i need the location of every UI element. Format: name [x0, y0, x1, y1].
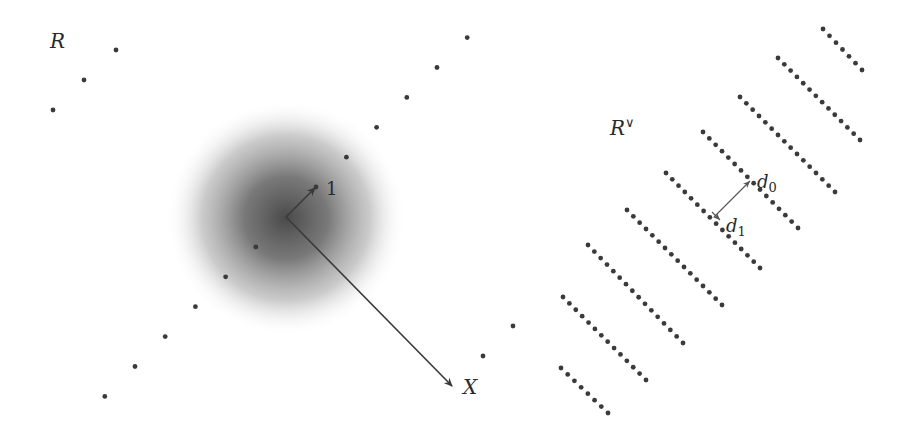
dual-lattice-point — [726, 155, 731, 160]
dual-lattice-point — [713, 296, 718, 301]
dual-lattice-point — [565, 372, 570, 377]
dual-lattice-point — [795, 75, 800, 80]
label-d0: d0 — [757, 171, 777, 195]
dual-lattice-point — [567, 301, 572, 306]
dual-lattice-point — [751, 181, 756, 186]
dual-lattice-point — [644, 378, 649, 383]
dual-lattice-point — [663, 246, 668, 251]
dual-lattice-point — [681, 341, 686, 346]
dual-lattice-point — [813, 93, 818, 98]
dual-lattice-point — [744, 101, 749, 106]
dual-lattice-point — [579, 385, 584, 390]
dual-lattice-point — [637, 220, 642, 225]
dual-lattice-point — [788, 68, 793, 73]
lattice-point — [51, 108, 56, 113]
lattice-point — [253, 245, 258, 250]
dual-lattice-point — [783, 213, 788, 218]
dual-lattice-point — [674, 334, 679, 339]
dual-lattice-point — [853, 61, 858, 66]
dual-lattice-point — [605, 262, 610, 267]
dual-lattice-point — [689, 196, 694, 201]
dual-lattice-point — [586, 243, 591, 248]
dual-lattice-point — [662, 321, 667, 326]
dual-lattice-point — [701, 130, 706, 135]
dual-lattice-point — [851, 131, 856, 136]
dual-lattice-lines — [559, 27, 865, 416]
dual-lattice-point — [789, 219, 794, 224]
dual-lattice-point — [858, 138, 863, 143]
dual-lattice-point — [827, 33, 832, 38]
label-r-dual: R∨ — [609, 115, 635, 140]
dual-lattice-point — [682, 190, 687, 195]
dual-lattice-point — [611, 269, 616, 274]
dual-lattice-point — [606, 411, 611, 416]
dual-lattice-point — [732, 162, 737, 167]
dual-lattice-point — [664, 171, 669, 176]
lattice-point — [344, 155, 349, 160]
dual-lattice-point — [833, 190, 838, 195]
dual-lattice-point — [707, 136, 712, 141]
dual-lattice-point — [770, 200, 775, 205]
dual-lattice-point — [720, 149, 725, 154]
dual-lattice-point — [631, 214, 636, 219]
dual-lattice-point — [820, 177, 825, 182]
dual-lattice-point — [599, 333, 604, 338]
label-one: 1 — [326, 178, 337, 199]
dual-lattice-point — [750, 107, 755, 112]
dual-lattice-point — [751, 259, 756, 264]
dual-lattice-point — [845, 125, 850, 130]
dual-lattice-point — [758, 266, 763, 271]
lattice-point — [163, 334, 168, 339]
dual-lattice-point — [714, 221, 719, 226]
dual-lattice-point — [807, 87, 812, 92]
dual-lattice-point — [656, 239, 661, 244]
dual-lattice-point — [713, 142, 718, 147]
lattice-point — [481, 354, 486, 359]
dual-lattice-point — [586, 320, 591, 325]
dual-lattice-point — [668, 328, 673, 333]
dual-lattice-point — [675, 258, 680, 263]
dual-lattice-point — [655, 314, 660, 319]
lattice-point — [223, 274, 228, 279]
dual-lattice-point — [585, 391, 590, 396]
lattice-point — [114, 48, 119, 53]
dual-lattice-point — [739, 168, 744, 173]
right-panel: R∨ d0 d1 — [559, 27, 865, 416]
dual-lattice-point — [631, 365, 636, 370]
dual-lattice-point — [573, 307, 578, 312]
dual-lattice-point — [630, 288, 635, 293]
dual-lattice-point — [688, 271, 693, 276]
dual-lattice-point — [776, 56, 781, 61]
dual-lattice-point — [834, 40, 839, 45]
dual-lattice-point — [649, 308, 654, 313]
lattice-point — [82, 78, 87, 83]
dual-lattice-point — [821, 27, 826, 32]
dual-lattice-point — [650, 233, 655, 238]
dual-lattice-point — [624, 358, 629, 363]
lattice-point — [465, 35, 470, 40]
dual-lattice-point — [795, 152, 800, 157]
dual-lattice-point — [644, 227, 649, 232]
dual-lattice-point — [745, 174, 750, 179]
dual-lattice-point — [739, 247, 744, 252]
dual-lattice-point — [637, 371, 642, 376]
lattice-diagram: R 1 X R∨ d0 d1 — [0, 0, 903, 435]
dual-lattice-point — [593, 327, 598, 332]
dual-lattice-point — [801, 81, 806, 86]
dual-lattice-point — [670, 177, 675, 182]
dual-lattice-point — [720, 303, 725, 308]
dual-lattice-point — [694, 277, 699, 282]
dual-lattice-point — [782, 139, 787, 144]
dual-lattice-point — [636, 295, 641, 300]
dual-lattice-point — [624, 282, 629, 287]
dual-lattice-point — [796, 226, 801, 231]
dual-lattice-point — [707, 215, 712, 220]
dual-lattice-point — [839, 119, 844, 124]
dual-lattice-point — [592, 398, 597, 403]
lattice-point — [435, 65, 440, 70]
dual-lattice-point — [669, 252, 674, 257]
dual-lattice-point — [676, 183, 681, 188]
dual-lattice-point — [777, 206, 782, 211]
dual-lattice-point — [807, 164, 812, 169]
lattice-point — [193, 304, 198, 309]
